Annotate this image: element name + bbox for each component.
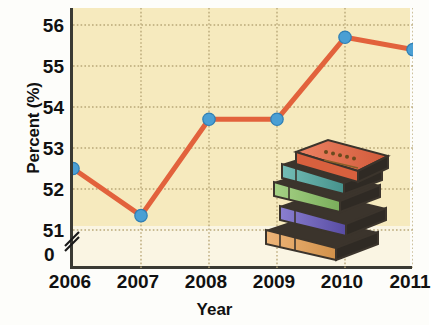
x-axis-tick-label: 2007 (108, 272, 168, 291)
data-point-marker[interactable] (407, 43, 413, 55)
data-point-marker[interactable] (203, 113, 215, 125)
data-point-marker[interactable] (339, 31, 351, 43)
x-axis-tick-labels: 200620072008200920102011 (0, 272, 429, 298)
y-axis-tick-label: 55 (30, 57, 64, 76)
data-point-marker[interactable] (271, 113, 283, 125)
y-axis-tick-label: 53 (30, 139, 64, 158)
x-axis-tick-label: 2010 (312, 272, 372, 291)
x-axis-title: Year (0, 300, 429, 320)
x-axis-tick-label: 2011 (380, 272, 435, 291)
x-axis-tick-label: 2008 (176, 272, 236, 291)
y-axis-zero-label: 0 (44, 244, 55, 266)
y-axis-tick-label: 54 (30, 98, 64, 117)
y-axis-tick-label: 52 (30, 180, 64, 199)
axis-break-icon (62, 228, 82, 254)
x-axis-tick-label: 2009 (244, 272, 304, 291)
stack-of-books-illustration (262, 138, 392, 266)
y-axis-tick-label: 56 (30, 16, 64, 35)
y-axis-tick-label: 51 (30, 221, 64, 240)
data-point-marker[interactable] (135, 209, 147, 221)
x-axis-tick-label: 2006 (40, 272, 100, 291)
